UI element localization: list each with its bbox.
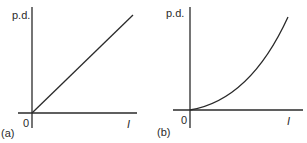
graphs-canvas <box>0 0 307 143</box>
panel-a-y-axis-label: p.d. <box>12 9 30 21</box>
panel-b-graph <box>173 7 303 128</box>
panel-b-y-axis-label: p.d. <box>166 7 184 19</box>
panel-a-linear-line <box>32 15 133 113</box>
panel-a-origin-label: 0 <box>23 117 29 129</box>
panel-a-graph <box>18 7 137 128</box>
panel-a-panel-label: (a) <box>1 127 14 139</box>
panel-a-x-axis-label: I <box>127 118 130 130</box>
panel-b-origin-label: 0 <box>181 114 187 126</box>
panel-b-curve <box>190 17 288 110</box>
panel-b-panel-label: (b) <box>157 126 170 138</box>
panel-b-x-axis-label: I <box>287 115 290 127</box>
